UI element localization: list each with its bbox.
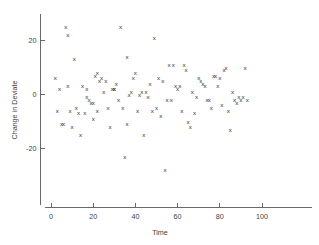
data-point-marker: x	[102, 88, 106, 95]
data-point-marker: x	[220, 101, 224, 108]
data-point-marker: x	[149, 80, 153, 87]
data-point-marker: x	[184, 66, 188, 73]
data-point-marker: x	[155, 104, 159, 111]
data-point-marker: x	[109, 123, 113, 130]
data-point-marker: x	[96, 107, 100, 114]
data-point-marker: x	[121, 104, 125, 111]
y-axis-tick-label: -20	[26, 144, 36, 153]
data-point-marker: x	[71, 123, 75, 130]
x-axis-title: Time	[152, 228, 168, 237]
data-point-marker: x	[180, 107, 184, 114]
data-point-marker: x	[66, 82, 70, 89]
data-point-marker: x	[58, 85, 62, 92]
data-point-marker: x	[56, 107, 60, 114]
plot-canvas: 200-20 020406080100 xxxxxxxxxxxxxxxxxxxx…	[0, 0, 319, 245]
data-point-marker: x	[210, 104, 214, 111]
data-point-marker: x	[54, 74, 58, 81]
data-point-marker: x	[153, 34, 157, 41]
data-point-marker: x	[208, 96, 212, 103]
data-point-marker: x	[244, 64, 248, 71]
data-point-marker: x	[159, 112, 163, 119]
data-point-marker: x	[136, 107, 140, 114]
data-points: xxxxxxxxxxxxxxxxxxxxxxxxxxxxxxxxxxxxxxxx…	[54, 23, 250, 173]
data-point-marker: x	[104, 77, 108, 84]
data-point-marker: x	[163, 166, 167, 173]
x-axis-tick-label: 60	[174, 212, 182, 221]
data-point-marker: x	[203, 82, 207, 89]
x-axis: 020406080100	[45, 203, 312, 221]
data-point-marker: x	[246, 96, 250, 103]
data-point-marker: x	[130, 88, 134, 95]
data-point-marker: x	[64, 23, 68, 30]
data-point-marker: x	[115, 80, 119, 87]
x-axis-tick-label: 40	[131, 212, 139, 221]
data-point-marker: x	[83, 109, 87, 116]
data-point-marker: x	[147, 93, 151, 100]
data-point-marker: x	[193, 109, 197, 116]
data-point-marker: x	[66, 31, 70, 38]
data-point-marker: x	[227, 107, 231, 114]
data-point-marker: x	[172, 61, 176, 68]
data-point-marker: x	[92, 115, 96, 122]
data-point-marker: x	[125, 53, 129, 60]
data-point-marker: x	[218, 74, 222, 81]
data-point-marker: x	[195, 93, 199, 100]
data-point-marker: x	[85, 85, 89, 92]
data-point-marker: x	[125, 120, 129, 127]
data-point-marker: x	[229, 126, 233, 133]
data-point-marker: x	[68, 107, 72, 114]
y-axis: 200-20	[26, 14, 44, 205]
data-point-marker: x	[178, 82, 182, 89]
data-point-marker: x	[231, 88, 235, 95]
data-point-marker: x	[119, 23, 123, 30]
data-point-marker: x	[123, 153, 127, 160]
data-point-marker: x	[106, 104, 110, 111]
data-point-marker: x	[189, 123, 193, 130]
scatter-plot-figure: 200-20 020406080100 xxxxxxxxxxxxxxxxxxxx…	[0, 0, 319, 245]
data-point-marker: x	[73, 55, 77, 62]
x-axis-tick-label: 0	[49, 212, 53, 221]
data-point-marker: x	[77, 109, 81, 116]
data-point-marker: x	[170, 96, 174, 103]
data-point-marker: x	[161, 77, 165, 84]
x-axis-tick-label: 80	[216, 212, 224, 221]
data-point-marker: x	[92, 99, 96, 106]
data-point-marker: x	[62, 120, 66, 127]
data-point-marker: x	[79, 131, 83, 138]
y-axis-title: Change in Deviate	[10, 80, 19, 139]
data-point-marker: x	[216, 82, 220, 89]
data-point-marker: x	[117, 96, 121, 103]
x-axis-tick-label: 20	[89, 212, 97, 221]
data-point-marker: x	[225, 64, 229, 71]
x-axis-tick-label: 100	[256, 212, 268, 221]
data-point-marker: x	[142, 131, 146, 138]
data-point-marker: x	[134, 69, 138, 76]
y-axis-tick-label: 0	[33, 90, 37, 99]
y-axis-tick-label: 20	[29, 36, 37, 45]
